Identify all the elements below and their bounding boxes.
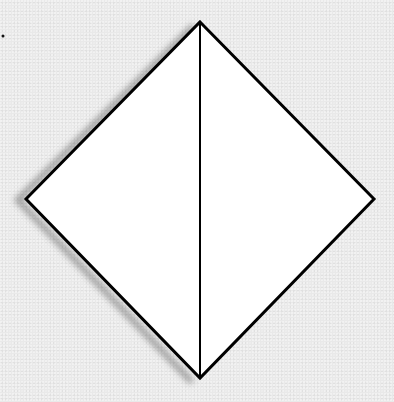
origami-diagram (0, 0, 394, 402)
marker-dot (2, 35, 5, 38)
